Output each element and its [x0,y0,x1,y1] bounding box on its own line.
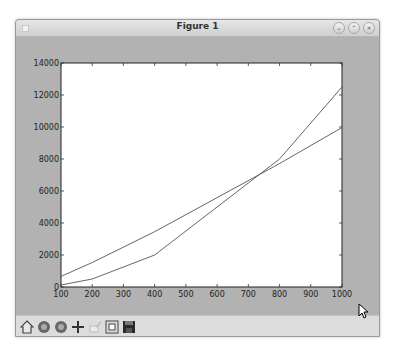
x-tick-label: 400 [147,290,162,299]
maximize-button[interactable]: ⌃ [348,22,360,34]
subplots-icon [105,320,119,334]
pan-icon [71,320,85,334]
home-icon [20,320,34,334]
mouse-cursor-icon [358,303,370,319]
x-tick-label: 600 [209,290,224,299]
x-tick-label: 300 [116,290,131,299]
figure-window: Figure 1 ⌄ ⌃ × 1002003004005006007008009… [15,19,380,337]
x-tick-label: 900 [303,290,318,299]
home-button[interactable] [19,319,35,335]
back-button[interactable] [36,319,52,335]
zoom-rect-icon [88,320,102,334]
x-tick-label: 700 [241,290,256,299]
line-chart: 1002003004005006007008009001000020004000… [16,37,379,315]
zoom-button[interactable] [87,319,103,335]
subplots-button[interactable] [104,319,120,335]
y-tick-label: 4000 [39,219,59,228]
y-tick-label: 12000 [34,91,59,100]
y-tick-label: 0 [54,283,59,292]
x-tick-label: 500 [178,290,193,299]
minimize-button[interactable]: ⌄ [333,22,345,34]
y-tick-label: 2000 [39,251,59,260]
figure-canvas[interactable]: 1002003004005006007008009001000020004000… [16,37,379,315]
title-bar[interactable]: Figure 1 ⌄ ⌃ × [16,20,379,37]
save-button[interactable] [121,319,137,335]
pan-button[interactable] [70,319,86,335]
back-icon [37,320,51,334]
y-tick-label: 14000 [34,59,59,68]
forward-icon [54,320,68,334]
y-tick-label: 8000 [39,155,59,164]
window-title: Figure 1 [16,21,379,31]
x-tick-label: 200 [85,290,100,299]
x-tick-label: 1000 [332,290,352,299]
y-tick-label: 10000 [34,123,59,132]
forward-button[interactable] [53,319,69,335]
x-tick-label: 800 [272,290,287,299]
save-icon [122,320,136,334]
close-button[interactable]: × [363,22,375,34]
plot-area [61,63,342,287]
y-tick-label: 6000 [39,187,59,196]
navigation-toolbar [16,315,380,337]
